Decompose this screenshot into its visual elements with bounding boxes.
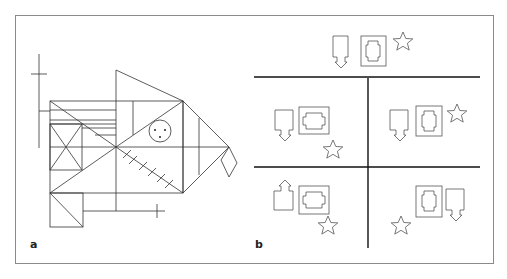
bottom-right-group (391, 186, 464, 234)
window-block-icon (299, 186, 329, 214)
star-icon (318, 216, 338, 234)
star-icon (323, 140, 343, 158)
window-block-icon (299, 107, 329, 134)
window-block-icon (361, 36, 386, 66)
star-icon (393, 32, 413, 50)
window-block-icon (416, 106, 442, 136)
door-arrow-down-icon (390, 110, 408, 141)
middle-left-group (275, 107, 343, 158)
middle-right-group (390, 104, 467, 141)
bottom-left-group (274, 180, 338, 234)
door-arrow-up-icon (274, 180, 293, 210)
eye-dots (154, 129, 166, 138)
door-arrow-down-icon (333, 36, 348, 68)
star-icon (391, 216, 411, 234)
top-group (333, 32, 413, 68)
door-arrow-down-icon (446, 189, 464, 221)
door-arrow-down-icon (275, 110, 293, 141)
panel-b-grid (254, 77, 480, 248)
star-icon (447, 104, 467, 122)
figure-canvas (0, 0, 507, 279)
panel-a-label: a (30, 238, 37, 251)
panel-b-label: b (255, 238, 263, 251)
panel-a-figure (31, 54, 237, 227)
